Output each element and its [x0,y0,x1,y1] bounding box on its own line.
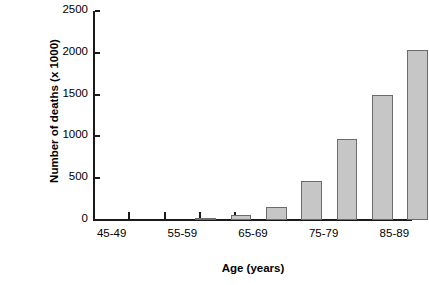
y-tick-label: 0 [38,212,88,224]
y-tick-label: 1000 [38,128,88,140]
bar [266,207,286,220]
bar [337,139,357,220]
bar [231,215,251,220]
y-tick-label: 500 [38,170,88,182]
x-axis-title: Age (years) [94,262,412,274]
x-tick-label: 85-89 [380,227,409,239]
bar [195,218,215,220]
y-tick-label: 1500 [38,87,88,99]
bar [301,181,321,220]
x-tick-label: 45-49 [97,227,126,239]
x-tick-label: 65-69 [238,227,267,239]
bar [407,50,427,220]
plot-area [94,11,412,220]
y-tick-label: 2500 [38,3,88,15]
x-tick-label: 55-59 [168,227,197,239]
x-tick-label: 75-79 [309,227,338,239]
bar [372,95,392,220]
y-tick-label: 2000 [38,45,88,57]
bar-chart-figure: Number of deaths (x 1000) Age (years) 05… [0,0,429,285]
